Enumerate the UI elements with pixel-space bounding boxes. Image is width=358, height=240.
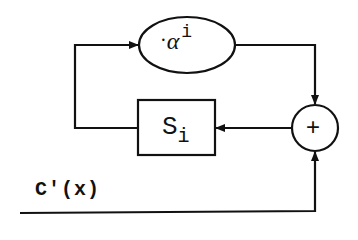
input-label: C'(x) [35,178,100,201]
adder-label: + [306,113,320,141]
edge-register-to-multiplier [75,45,138,128]
multiplier-label: ·αi [160,28,192,55]
register-label: Si [162,112,190,142]
edge-multiplier-to-adder [235,45,315,104]
